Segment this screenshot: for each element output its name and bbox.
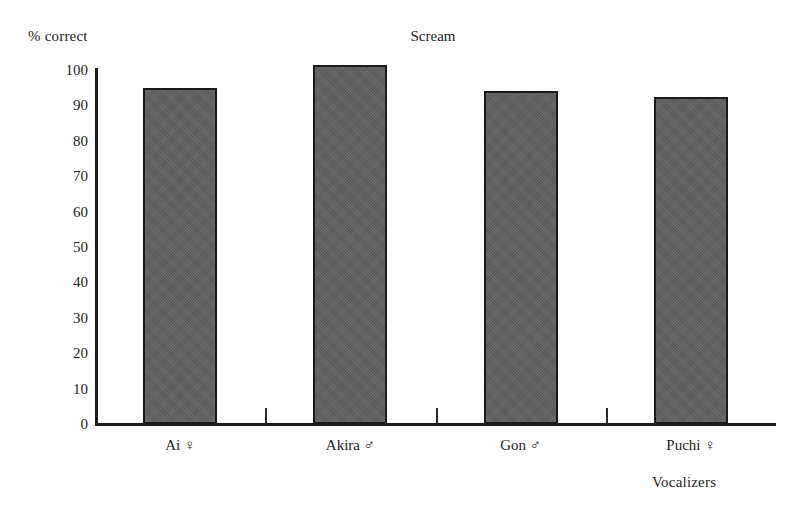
y-tick-label: 50 bbox=[30, 240, 88, 255]
x-category-label: Puchi ♀ bbox=[666, 437, 715, 454]
x-axis-tick bbox=[265, 408, 267, 423]
bar bbox=[654, 97, 728, 424]
y-axis-tick-labels: 1009080706050403020100 bbox=[30, 0, 88, 518]
y-tick-label: 40 bbox=[30, 275, 88, 290]
bar bbox=[484, 91, 558, 424]
bar-chart-figure: % correct Scream 1009080706050403020100 … bbox=[0, 0, 810, 518]
bar bbox=[313, 65, 387, 424]
x-category-label: Gon ♂ bbox=[500, 437, 541, 454]
y-tick-label: 0 bbox=[30, 417, 88, 432]
y-tick-label: 90 bbox=[30, 98, 88, 113]
y-tick-label: 20 bbox=[30, 346, 88, 361]
x-axis-tick bbox=[606, 408, 608, 423]
x-axis-tick bbox=[436, 408, 438, 423]
y-tick-label: 10 bbox=[30, 381, 88, 396]
x-category-label: Akira ♂ bbox=[326, 437, 375, 454]
bar bbox=[143, 88, 217, 424]
x-category-label: Ai ♀ bbox=[165, 437, 195, 454]
y-tick-label: 80 bbox=[30, 133, 88, 148]
x-axis-label: Vocalizers bbox=[652, 474, 716, 491]
plot-area: 1009080706050403020100 Ai ♀Akira ♂Gon ♂P… bbox=[0, 0, 810, 518]
y-axis-line bbox=[95, 68, 98, 426]
y-tick-label: 60 bbox=[30, 204, 88, 219]
y-tick-label: 100 bbox=[30, 63, 88, 78]
y-tick-label: 30 bbox=[30, 310, 88, 325]
y-tick-label: 70 bbox=[30, 169, 88, 184]
